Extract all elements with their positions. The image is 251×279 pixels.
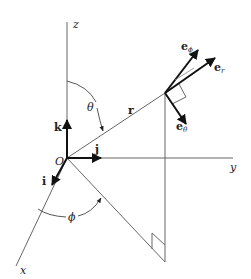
j-label: j [94, 143, 99, 156]
theta-label: θ [87, 101, 94, 114]
theta-arc [67, 81, 96, 102]
origin-label: O [55, 155, 64, 168]
e-phi-label: eϕ [181, 40, 193, 54]
y-axis-label: y [229, 161, 237, 174]
e-r-arrow [165, 58, 215, 93]
xy-projection-line [67, 158, 165, 262]
position-vector-r [67, 93, 165, 158]
z-axis-label: z [72, 18, 79, 31]
e-r-label: er [214, 61, 225, 75]
theta-arc-arrow [97, 108, 103, 131]
x-axis-label: x [20, 264, 27, 277]
e-theta-label: eθ [176, 120, 188, 134]
right-angle-marker-foot [152, 233, 165, 249]
phi-arc-arrow [78, 198, 101, 216]
k-label: k [54, 121, 62, 134]
r-label: r [128, 104, 134, 117]
i-label: i [42, 175, 46, 188]
spherical-coordinates-diagram: z y x O k j i r θ ϕ eϕ er eθ [0, 0, 251, 279]
e-phi-arrow [165, 50, 198, 93]
phi-label: ϕ [68, 211, 76, 224]
